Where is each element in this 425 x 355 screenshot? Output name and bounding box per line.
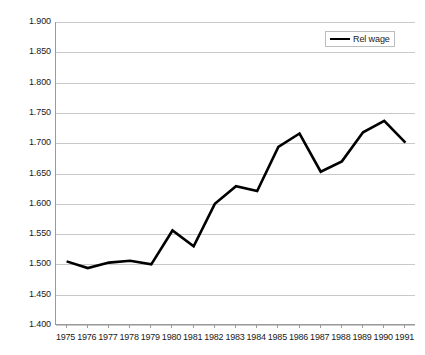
x-axis-tick xyxy=(171,325,172,328)
x-axis-tick xyxy=(214,325,215,328)
x-axis-tick xyxy=(235,325,236,328)
x-axis-tick xyxy=(66,325,67,328)
x-axis-tick xyxy=(404,325,405,328)
series-rel-wage xyxy=(56,22,416,325)
x-axis: 1975197619771978197919801981198219831984… xyxy=(55,325,415,355)
chart-legend: Rel wage xyxy=(325,31,395,47)
x-axis-tick xyxy=(341,325,342,328)
legend-label-rel-wage: Rel wage xyxy=(353,34,390,44)
x-axis-tick xyxy=(108,325,109,328)
y-axis-label: 1.600 xyxy=(7,199,51,208)
y-axis-label: 1.500 xyxy=(7,259,51,268)
y-axis-label: 1.550 xyxy=(7,229,51,238)
x-axis-tick xyxy=(362,325,363,328)
y-axis-label: 1.700 xyxy=(7,138,51,147)
series-line xyxy=(67,121,406,268)
y-axis-label: 1.900 xyxy=(7,17,51,26)
x-axis-tick xyxy=(87,325,88,328)
y-axis-label: 1.850 xyxy=(7,47,51,56)
y-axis-label: 1.650 xyxy=(7,169,51,178)
y-axis-label: 1.750 xyxy=(7,108,51,117)
x-axis-tick xyxy=(150,325,151,328)
x-axis-tick xyxy=(320,325,321,328)
y-axis-label: 1.450 xyxy=(7,290,51,299)
x-axis-tick xyxy=(277,325,278,328)
y-axis-label: 1.800 xyxy=(7,78,51,87)
legend-line-swatch xyxy=(330,38,350,40)
x-axis-tick xyxy=(256,325,257,328)
line-chart: 1.9001.8501.8001.7501.7001.6501.6001.550… xyxy=(0,0,425,355)
x-axis-tick xyxy=(383,325,384,328)
x-axis-tick xyxy=(193,325,194,328)
x-axis-label: 1991 xyxy=(389,332,419,342)
plot-area xyxy=(55,22,415,325)
y-axis-label: 1.400 xyxy=(7,320,51,329)
x-axis-tick xyxy=(129,325,130,328)
x-axis-tick xyxy=(299,325,300,328)
